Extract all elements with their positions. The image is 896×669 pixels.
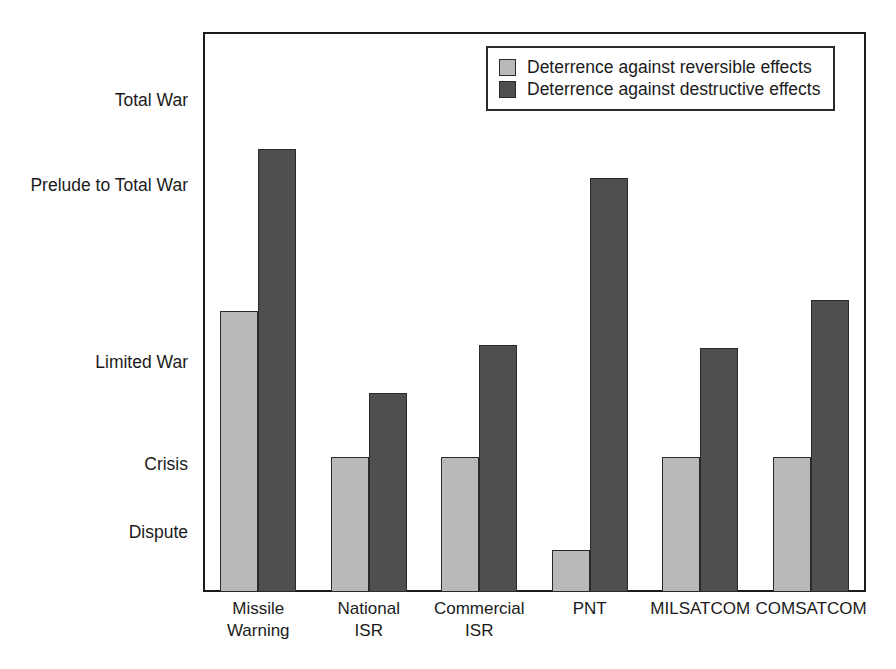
x-tick-label-pnt: PNT: [535, 598, 646, 620]
bar-reversible[interactable]: [552, 550, 590, 592]
bar-reversible[interactable]: [662, 457, 700, 592]
bar-reversible[interactable]: [220, 311, 258, 592]
bar-destructive[interactable]: [258, 149, 296, 592]
bar-reversible[interactable]: [773, 457, 811, 592]
y-tick-label-limited-war: Limited War: [0, 354, 188, 372]
x-tick-label-line: COMSATCOM: [756, 598, 867, 620]
x-tick-label-commercial-isr: CommercialISR: [424, 598, 535, 643]
x-tick-label-line: ISR: [424, 620, 535, 642]
bar-reversible[interactable]: [331, 457, 369, 592]
legend-item-reversible[interactable]: Deterrence against reversible effects: [499, 57, 820, 77]
bar-group: [662, 32, 738, 592]
x-tick-label-milsatcom: MILSATCOM: [645, 598, 756, 620]
y-tick-label-total-war: Total War: [0, 92, 188, 110]
legend-label-reversible: Deterrence against reversible effects: [527, 57, 812, 77]
x-tick-label-line: Warning: [203, 620, 314, 642]
y-tick-label-dispute: Dispute: [0, 524, 188, 542]
bar-reversible[interactable]: [441, 457, 479, 592]
bars-layer: [203, 32, 866, 592]
bar-destructive[interactable]: [369, 393, 407, 592]
x-tick-label-national-isr: NationalISR: [314, 598, 425, 643]
bar-destructive[interactable]: [811, 300, 849, 592]
dark-gray-swatch-icon: [499, 81, 516, 98]
bar-group: [331, 32, 407, 592]
x-tick-label-line: PNT: [535, 598, 646, 620]
legend-item-destructive[interactable]: Deterrence against destructive effects: [499, 79, 820, 99]
legend: Deterrence against reversible effects De…: [486, 46, 835, 111]
bar-chart: Total War Prelude to Total War Limited W…: [0, 0, 896, 669]
x-tick-label-line: Commercial: [424, 598, 535, 620]
y-axis-tick-labels: Total War Prelude to Total War Limited W…: [0, 0, 196, 669]
legend-label-destructive: Deterrence against destructive effects: [527, 79, 820, 99]
x-tick-label-line: MILSATCOM: [645, 598, 756, 620]
x-tick-label-comsatcom: COMSATCOM: [756, 598, 867, 620]
bar-group: [220, 32, 296, 592]
light-gray-swatch-icon: [499, 59, 516, 76]
y-tick-label-prelude-to-total-war: Prelude to Total War: [0, 177, 188, 195]
x-tick-label-line: National: [314, 598, 425, 620]
x-tick-label-line: ISR: [314, 620, 425, 642]
bar-group: [773, 32, 849, 592]
x-tick-label-line: Missile: [203, 598, 314, 620]
bar-group: [552, 32, 628, 592]
x-axis-tick-labels: MissileWarningNationalISRCommercialISRPN…: [203, 598, 866, 668]
bar-group: [441, 32, 517, 592]
x-tick-label-missile-warning: MissileWarning: [203, 598, 314, 643]
bar-destructive[interactable]: [700, 348, 738, 592]
bar-destructive[interactable]: [479, 345, 517, 592]
bar-destructive[interactable]: [590, 178, 628, 592]
y-tick-label-crisis: Crisis: [0, 456, 188, 474]
